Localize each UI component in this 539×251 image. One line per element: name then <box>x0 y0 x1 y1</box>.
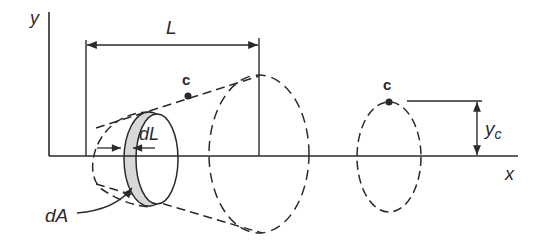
x-axis-label: x <box>504 164 515 184</box>
centroid-point-cone <box>185 93 192 100</box>
dl-label: dL <box>139 124 159 144</box>
da-label: dA <box>45 205 68 226</box>
centroid-label-cone: c <box>182 71 190 88</box>
cone-bottom-edge <box>96 184 262 233</box>
centroid-point-ring <box>386 99 393 106</box>
diagram-canvas: y x L dL dA c c yc <box>0 0 539 251</box>
length-label: L <box>166 17 177 38</box>
y-axis-label: y <box>28 8 40 28</box>
yc-label: yc <box>483 118 502 142</box>
yc-label-sub: c <box>495 126 502 142</box>
centroid-path-ellipse <box>357 102 421 212</box>
centroid-label-ring: c <box>383 76 391 93</box>
